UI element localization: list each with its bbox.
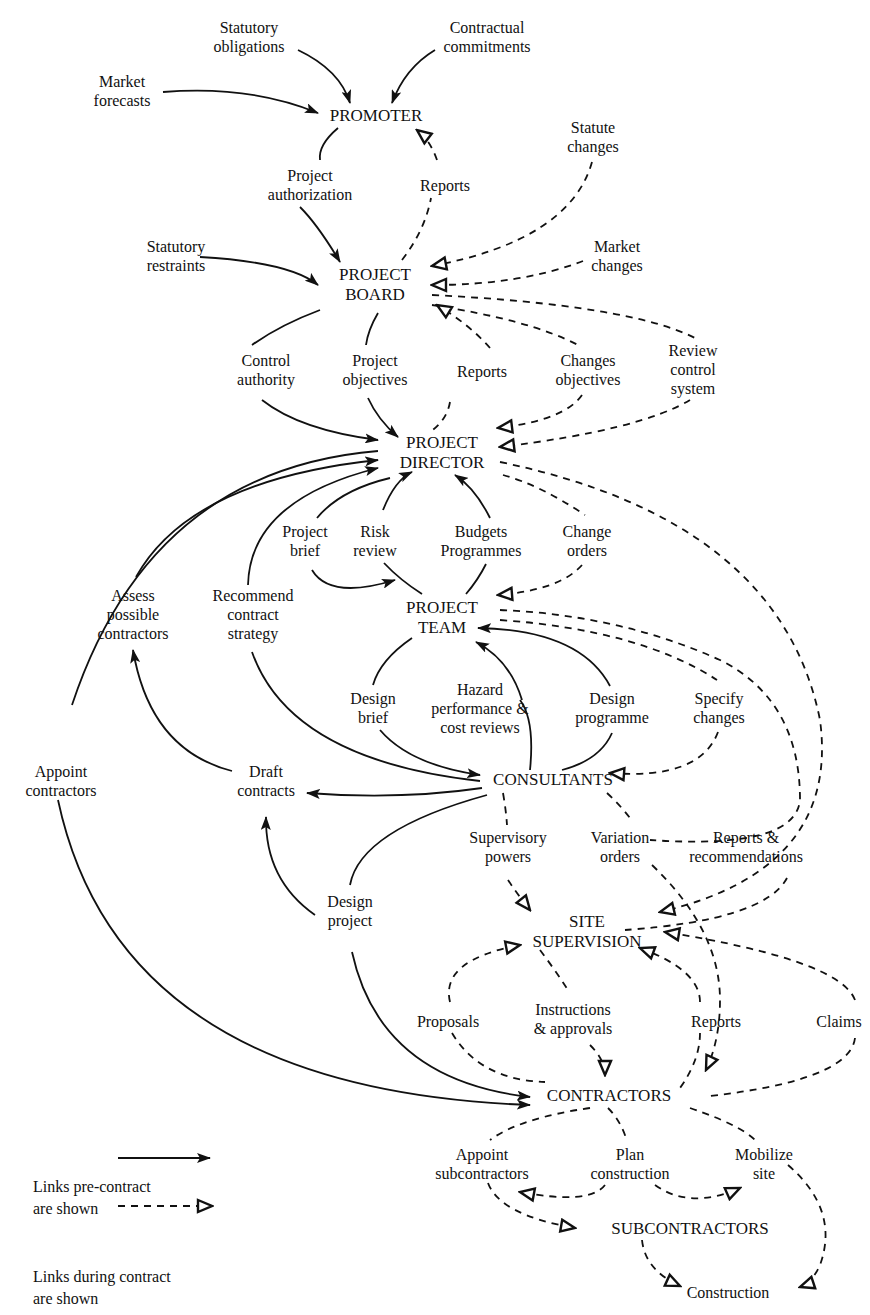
label-supervisory-powers: Supervisory powers (469, 828, 546, 866)
node-consultants: CONSULTANTS (493, 770, 613, 790)
label-reports-site: Reports (691, 1012, 741, 1031)
label-contractual-commitments: Contractual commitments (443, 18, 530, 56)
link-statutory-obligations (298, 50, 350, 103)
label-hazard-reviews: Hazard performance & cost reviews (431, 680, 528, 737)
node-contractors: CONTRACTORS (547, 1086, 671, 1106)
label-instructions-approvals: Instructions & approvals (534, 1000, 613, 1038)
label-recommend-contract-strategy: Recommend contract strategy (213, 586, 294, 643)
label-design-brief: Design brief (350, 689, 395, 727)
label-variation-orders: Variation orders (591, 828, 650, 866)
label-proposals: Proposals (417, 1012, 479, 1031)
label-statute-changes: Statute changes (567, 118, 619, 156)
label-control-authority: Control authority (237, 351, 295, 389)
label-appoint-subcontractors: Appoint subcontractors (435, 1145, 528, 1183)
label-design-project: Design project (327, 892, 372, 930)
label-claims: Claims (816, 1012, 861, 1031)
label-budgets-programmes: Budgets Programmes (441, 522, 522, 560)
label-project-authorization: Project authorization (268, 166, 352, 204)
node-project-director: PROJECT DIRECTOR (400, 433, 485, 473)
label-mobilize-site: Mobilize site (735, 1145, 793, 1183)
link-contractual-commitments (392, 50, 435, 103)
label-project-objectives: Project objectives (343, 351, 408, 389)
label-appoint-contractors: Appoint contractors (25, 762, 96, 800)
legend-pre-contract: Links pre-contract are shown (33, 1176, 198, 1219)
label-reports-recommendations: Reports & recommendations (689, 828, 803, 866)
label-project-brief: Project brief (282, 522, 327, 560)
node-project-team: PROJECT TEAM (406, 598, 478, 638)
label-statutory-restraints: Statutory restraints (147, 237, 206, 275)
label-draft-contracts: Draft contracts (237, 762, 295, 800)
legend-during-contract: Links during contract are shown (33, 1266, 198, 1309)
node-subcontractors: SUBCONTRACTORS (611, 1219, 768, 1239)
label-change-orders: Change orders (563, 522, 612, 560)
node-site-supervision: SITE SUPERVISION (532, 912, 641, 952)
label-risk-review: Risk review (353, 522, 397, 560)
label-statutory-obligations: Statutory obligations (213, 18, 284, 56)
flow-diagram (0, 0, 870, 1315)
node-project-board: PROJECT BOARD (339, 265, 411, 305)
label-market-changes: Market changes (591, 237, 643, 275)
node-construction: Construction (687, 1283, 770, 1303)
label-reports-board: Reports (457, 362, 507, 381)
label-specify-changes: Specify changes (693, 689, 745, 727)
label-reports-promoter: Reports (420, 176, 470, 195)
label-market-forecasts: Market forecasts (94, 72, 151, 110)
link-market-forecasts (163, 91, 318, 113)
label-assess-possible-contractors: Assess possible contractors (97, 586, 168, 643)
label-changes-objectives: Changes objectives (556, 351, 621, 389)
label-design-programme: Design programme (575, 689, 649, 727)
node-promoter: PROMOTER (330, 106, 423, 126)
legend: Links pre-contract are shown Links durin… (33, 1133, 198, 1315)
label-plan-construction: Plan construction (590, 1145, 669, 1183)
label-review-control-system: Review control system (669, 341, 718, 398)
